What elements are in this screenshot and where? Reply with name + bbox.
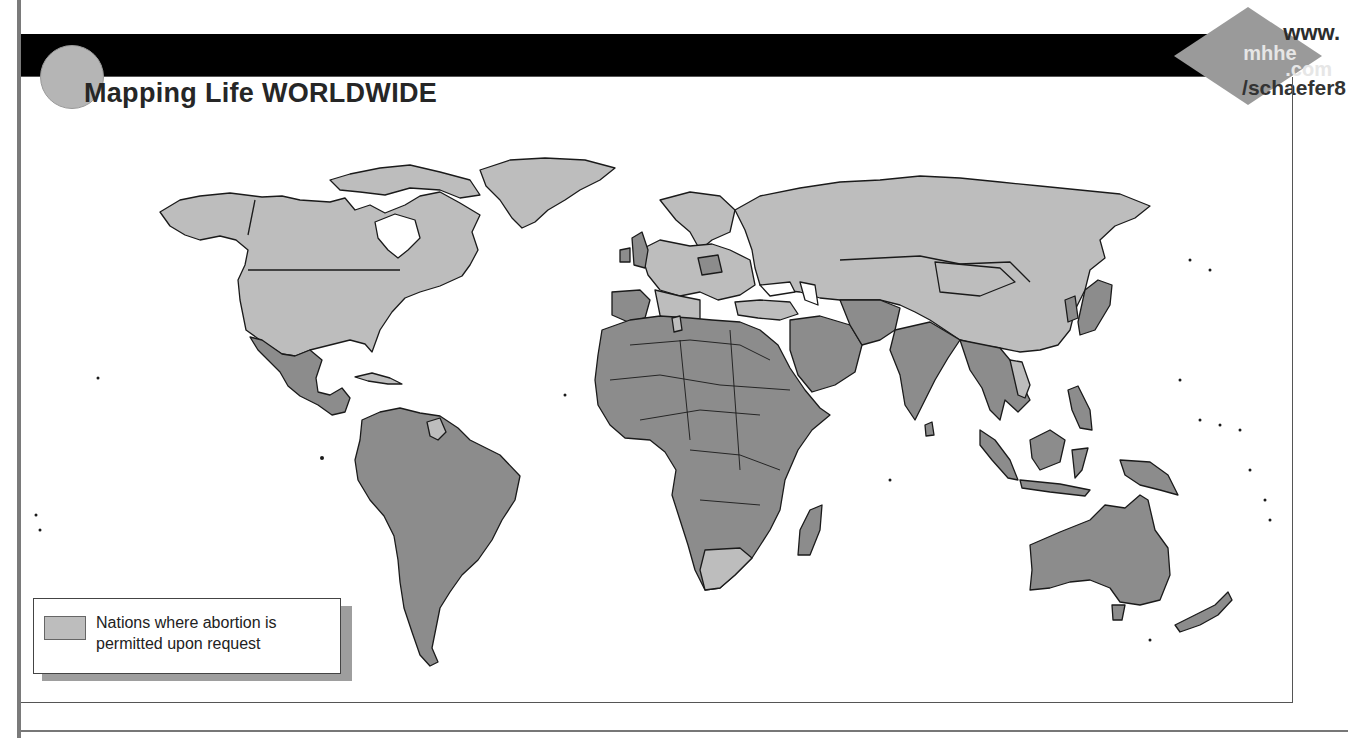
region-korea [1065, 296, 1078, 322]
region-south-africa [700, 548, 752, 590]
region-tasmania [1112, 605, 1125, 620]
legend-label: Nations where abortion is permitted upon… [96, 612, 336, 654]
region-cuba [355, 373, 402, 384]
region-sri-lanka [925, 422, 934, 436]
region-java [1020, 480, 1090, 496]
region-uk [632, 232, 648, 268]
region-borneo [1030, 430, 1065, 470]
region-greenland [480, 158, 615, 228]
region-tunisia [672, 316, 682, 332]
legend-swatch-permitted [44, 616, 86, 640]
region-sulawesi [1072, 448, 1088, 478]
region-poland [698, 255, 722, 275]
region-australia [1030, 495, 1170, 605]
region-spain [612, 290, 650, 322]
region-sumatra [980, 430, 1018, 480]
region-turkey [735, 300, 798, 320]
map-legend: Nations where abortion is permitted upon… [33, 598, 341, 674]
region-south-america [355, 408, 520, 666]
region-madagascar [798, 505, 822, 555]
region-north-america-permitted [160, 165, 480, 356]
region-new-zealand [1175, 592, 1232, 632]
region-philippines [1068, 386, 1092, 430]
region-new-guinea [1120, 460, 1178, 495]
region-ireland [620, 248, 630, 262]
region-india [890, 322, 960, 420]
